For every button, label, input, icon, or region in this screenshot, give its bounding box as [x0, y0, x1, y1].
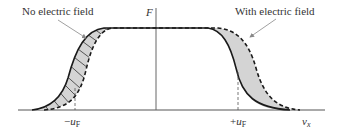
- label-no-field: No electric field: [22, 5, 94, 17]
- label-with-field: With electric field: [235, 5, 315, 17]
- left-shaded-region: [32, 28, 112, 110]
- arrow-no-field: [58, 20, 86, 38]
- x-axis-subscript: x: [306, 120, 311, 129]
- tick-pos-subscript: F: [242, 120, 247, 129]
- tick-neg-uF: −uF: [64, 115, 81, 129]
- fermi-distribution-diagram: No electric field With electric field F …: [0, 0, 338, 138]
- x-axis-label: vx: [302, 115, 311, 129]
- right-shaded-region: [208, 28, 300, 110]
- tick-neg-subscript: F: [76, 120, 81, 129]
- tick-pos-uF: +uF: [230, 115, 247, 129]
- y-axis-label: F: [145, 6, 153, 18]
- arrow-with-field: [250, 19, 276, 37]
